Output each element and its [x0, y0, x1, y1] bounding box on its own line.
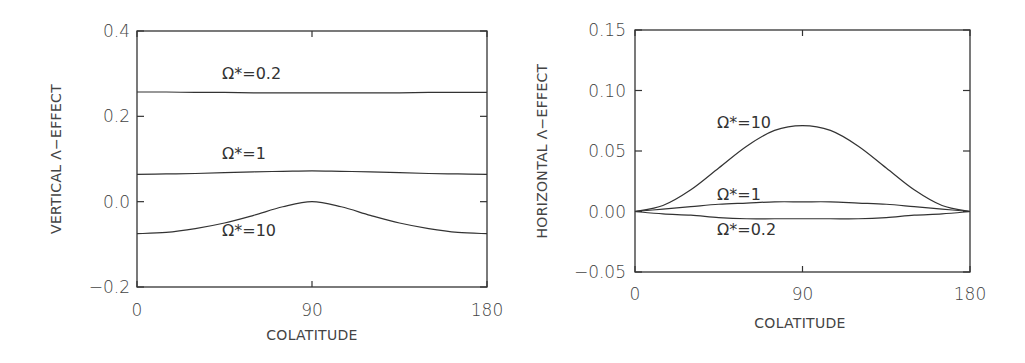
y-axis-title: VERTICAL Λ−EFFECT	[48, 84, 64, 234]
y-tick-label: 0.00	[588, 202, 626, 222]
curve-label-omega-1: Ω*=1	[222, 144, 266, 163]
x-tick-label: 180	[954, 284, 986, 304]
y-tick-label: 0.05	[588, 141, 626, 161]
curve-label-omega-0.2: Ω*=0.2	[717, 220, 776, 239]
curve-0.2	[137, 92, 487, 93]
x-axis-title: COLATITUDE	[266, 327, 358, 343]
curve-10	[635, 126, 970, 212]
y-axis-title: HORIZONTAL Λ−EFFECT	[534, 63, 550, 238]
tick-labels: −0.050.000.050.100.15090180	[574, 20, 986, 304]
y-tick-label: 0.4	[103, 21, 130, 41]
x-tick-label: 180	[471, 300, 503, 320]
x-tick-label: 0	[630, 284, 641, 304]
y-tick-label: 0.10	[588, 81, 626, 101]
curve-1	[137, 171, 487, 174]
curve-1	[635, 202, 970, 212]
plot-frame	[635, 30, 970, 272]
x-tick-label: 0	[132, 300, 143, 320]
curve-label-omega-0.2: Ω*=0.2	[222, 64, 281, 83]
curve-label-omega-10: Ω*=10	[717, 113, 771, 132]
curve-label-omega-10: Ω*=10	[222, 221, 276, 240]
x-tick-label: 90	[792, 284, 814, 304]
y-tick-label: 0.0	[103, 192, 130, 212]
curve-0.2	[635, 212, 970, 219]
horizontal-lambda-effect-chart: −0.050.000.050.100.15090180 COLATITUDE H…	[534, 20, 986, 331]
y-tick-label: 0.2	[103, 106, 130, 126]
x-axis-title: COLATITUDE	[754, 315, 846, 331]
axis-ticks	[635, 30, 970, 272]
curve-label-omega-1: Ω*=1	[717, 185, 761, 204]
vertical-lambda-effect-chart: −0.20.00.20.4090180 COLATITUDE VERTICAL …	[48, 21, 503, 343]
x-tick-label: 90	[301, 300, 323, 320]
y-tick-label: 0.15	[588, 20, 626, 40]
figure: −0.20.00.20.4090180 COLATITUDE VERTICAL …	[0, 0, 1025, 363]
tick-labels: −0.20.00.20.4090180	[89, 21, 504, 320]
data-curves	[635, 126, 970, 219]
y-tick-label: −0.05	[574, 262, 626, 282]
y-tick-label: −0.2	[89, 277, 130, 297]
data-curves	[137, 92, 487, 234]
axis-ticks	[137, 31, 487, 287]
plot-frame	[137, 31, 487, 287]
curve-10	[137, 202, 487, 234]
